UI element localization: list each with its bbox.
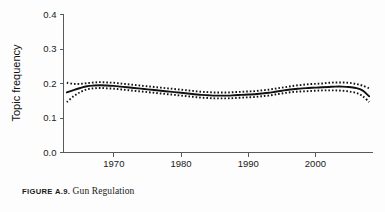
figure-caption: FIGURE A.9. Gun Regulation (22, 186, 372, 196)
y-axis-title: Topic frequency (10, 44, 22, 122)
x-tick-label: 1970 (103, 158, 124, 169)
figure-container: 0.00.10.20.30.4 1970198019902000 Topic f… (0, 0, 385, 212)
chart-series (67, 82, 369, 102)
figure-caption-label: FIGURE A.9. (22, 187, 70, 196)
x-tick-label: 2000 (305, 158, 326, 169)
trend-line (67, 85, 369, 96)
y-tick-label: 0.3 (43, 43, 56, 54)
x-tick-label: 1980 (170, 158, 191, 169)
y-tick-label: 0.4 (43, 9, 56, 20)
y-tick-label: 0.0 (43, 147, 56, 158)
y-axis-ticks: 0.00.10.20.30.4 (43, 9, 63, 158)
chart-plot: 0.00.10.20.30.4 1970198019902000 Topic f… (0, 0, 385, 175)
x-tick-label: 1990 (238, 158, 259, 169)
figure-caption-title: Gun Regulation (73, 186, 135, 196)
y-tick-label: 0.2 (43, 78, 56, 89)
y-tick-label: 0.1 (43, 112, 56, 123)
x-axis-ticks: 1970198019902000 (103, 153, 326, 170)
